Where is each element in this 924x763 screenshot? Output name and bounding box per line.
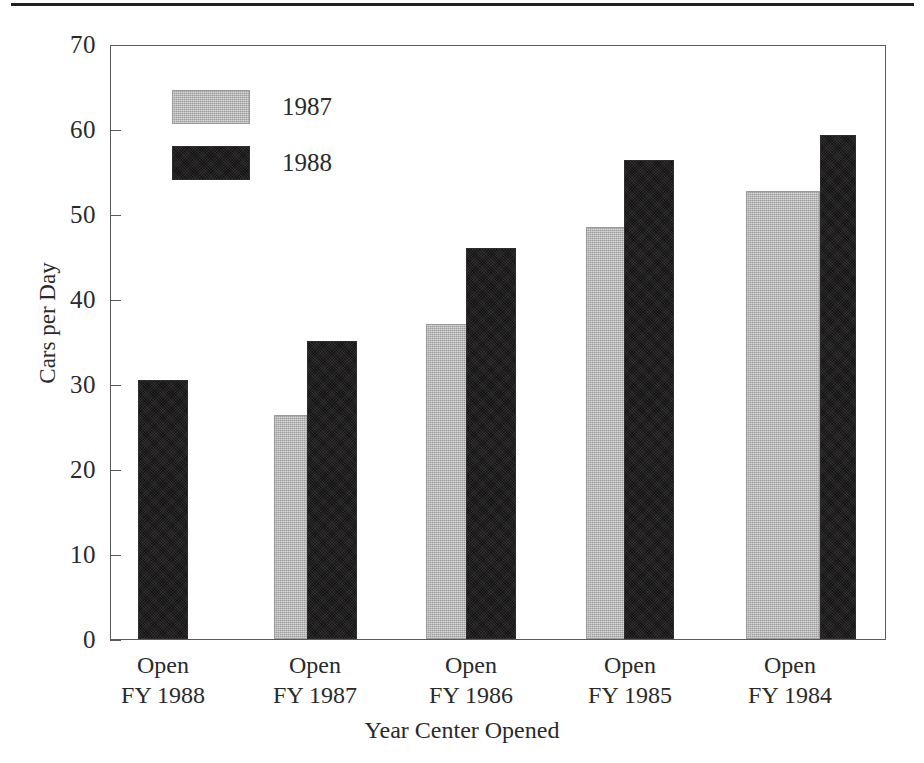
legend-row-1987: 1987 bbox=[172, 90, 332, 124]
x-axis-title: Year Center Opened bbox=[0, 717, 924, 744]
x-axis-label-group-3: Open FY 1986 bbox=[381, 650, 561, 710]
top-rule-divider bbox=[11, 3, 914, 6]
x-axis-label-group-2-line-1: Open bbox=[225, 650, 405, 680]
y-tick-mark-50 bbox=[110, 215, 121, 217]
x-axis-label-group-4-line-2: FY 1985 bbox=[540, 680, 720, 710]
y-tick-mark-30 bbox=[110, 385, 121, 387]
bar-1988-group-3 bbox=[466, 248, 516, 639]
legend-swatch-1988 bbox=[172, 146, 250, 180]
legend-label-1987: 1987 bbox=[282, 93, 332, 121]
legend-row-1988: 1988 bbox=[172, 146, 332, 180]
y-tick-label-60: 60 bbox=[52, 117, 96, 142]
x-axis-label-group-3-line-1: Open bbox=[381, 650, 561, 680]
y-tick-label-0: 0 bbox=[52, 627, 96, 652]
legend-label-1988: 1988 bbox=[282, 149, 332, 177]
x-axis-label-group-2-line-2: FY 1987 bbox=[225, 680, 405, 710]
bar-1988-group-1 bbox=[138, 380, 188, 639]
y-tick-mark-40 bbox=[110, 300, 121, 302]
y-tick-mark-70 bbox=[110, 45, 121, 47]
x-axis-label-group-5-line-2: FY 1984 bbox=[700, 680, 880, 710]
x-axis-label-group-2: Open FY 1987 bbox=[225, 650, 405, 710]
x-axis-label-group-4-line-1: Open bbox=[540, 650, 720, 680]
bar-1988-group-4 bbox=[624, 160, 674, 639]
y-tick-mark-10 bbox=[110, 555, 121, 557]
y-tick-label-10: 10 bbox=[52, 542, 96, 567]
y-tick-mark-60 bbox=[110, 130, 121, 132]
y-axis-title: Cars per Day bbox=[35, 193, 61, 453]
legend-swatch-1987 bbox=[172, 90, 250, 124]
bar-1987-group-5 bbox=[746, 191, 820, 639]
y-tick-mark-0 bbox=[110, 639, 121, 641]
x-axis-label-group-3-line-2: FY 1986 bbox=[381, 680, 561, 710]
y-tick-mark-20 bbox=[110, 470, 121, 472]
bar-1988-group-2 bbox=[307, 341, 357, 639]
x-axis-label-group-5: Open FY 1984 bbox=[700, 650, 880, 710]
x-axis-label-group-5-line-1: Open bbox=[700, 650, 880, 680]
bar-1988-group-5 bbox=[820, 135, 856, 639]
y-tick-label-20: 20 bbox=[52, 457, 96, 482]
x-axis-label-group-4: Open FY 1985 bbox=[540, 650, 720, 710]
bar-chart-figure: 70 60 50 40 30 20 10 0 Cars per Day 1987 bbox=[0, 0, 924, 763]
y-tick-label-70: 70 bbox=[52, 32, 96, 57]
